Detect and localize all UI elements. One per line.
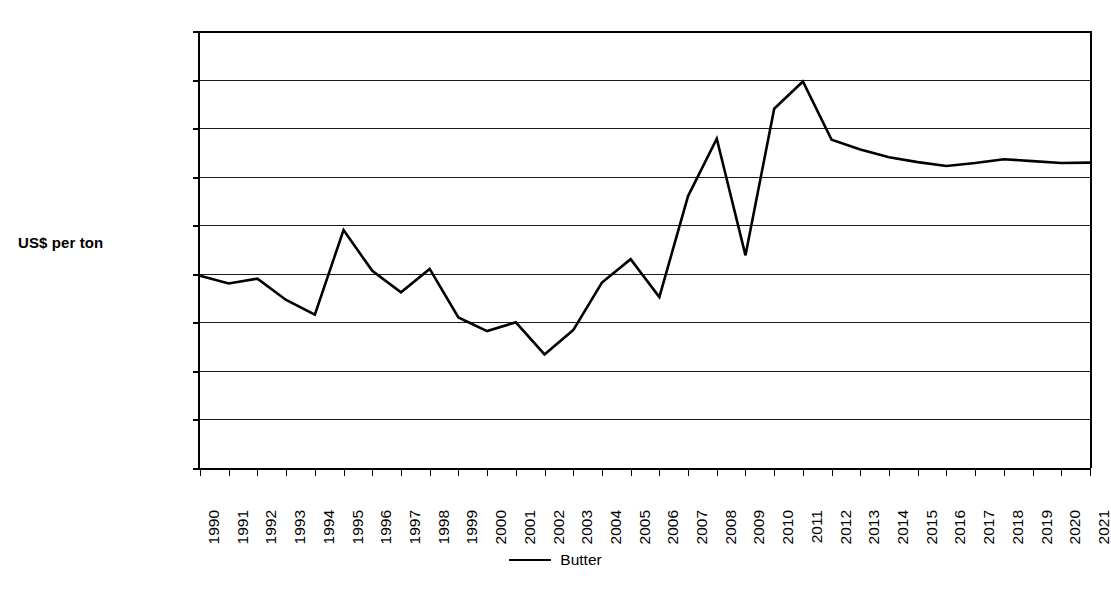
x-tick-label: 2018: [1010, 510, 1026, 544]
x-tick-label: 1992: [263, 510, 279, 544]
x-tick-label: 2000: [493, 510, 509, 544]
x-tick-mark: [889, 468, 890, 476]
x-tick-mark: [803, 468, 804, 476]
x-tick-label: 2020: [1067, 510, 1083, 544]
x-tick-label: 2007: [694, 510, 710, 544]
x-tick-mark: [286, 468, 287, 476]
x-tick-mark: [946, 468, 947, 476]
gridline: [200, 468, 1090, 470]
x-tick-label: 2002: [551, 510, 567, 544]
x-tick-label: 2005: [637, 510, 653, 544]
x-tick-label: 2004: [608, 510, 624, 544]
y-axis-title: US$ per ton: [18, 234, 103, 251]
x-tick-mark: [659, 468, 660, 476]
y-tick-mark: [193, 80, 200, 82]
x-tick-mark: [1033, 468, 1034, 476]
x-tick-mark: [1004, 468, 1005, 476]
x-tick-label: 2014: [895, 510, 911, 544]
x-tick-mark: [372, 468, 373, 476]
y-tick-mark: [193, 371, 200, 373]
x-tick-mark: [430, 468, 431, 476]
x-tick-mark: [573, 468, 574, 476]
x-tick-label: 2017: [981, 510, 997, 544]
x-tick-mark: [257, 468, 258, 476]
legend-label-butter: Butter: [560, 552, 601, 568]
x-tick-label: 2008: [723, 510, 739, 544]
x-tick-mark: [229, 468, 230, 476]
x-tick-label: 2013: [866, 510, 882, 544]
x-tick-mark: [1061, 468, 1062, 476]
x-tick-label: 1994: [321, 510, 337, 544]
x-tick-mark: [975, 468, 976, 476]
x-tick-mark: [487, 468, 488, 476]
x-tick-mark: [745, 468, 746, 476]
x-tick-label: 2019: [1039, 510, 1055, 544]
y-tick-mark: [193, 31, 200, 33]
y-tick-mark: [193, 177, 200, 179]
x-tick-label: 2009: [751, 510, 767, 544]
x-tick-label: 1995: [350, 510, 366, 544]
x-tick-label: 1990: [206, 510, 222, 544]
series-butter: [200, 31, 1090, 468]
x-tick-mark: [200, 468, 201, 476]
series-butter-line: [200, 82, 1090, 355]
y-tick-mark: [193, 468, 200, 470]
x-tick-mark: [458, 468, 459, 476]
x-tick-label: 1993: [292, 510, 308, 544]
x-tick-label: 2015: [924, 510, 940, 544]
x-tick-mark: [602, 468, 603, 476]
y-tick-mark: [193, 274, 200, 276]
x-tick-label: 1991: [235, 510, 251, 544]
x-tick-mark: [918, 468, 919, 476]
x-tick-mark: [717, 468, 718, 476]
legend-swatch-butter: [509, 559, 551, 561]
x-tick-label: 1996: [378, 510, 394, 544]
x-tick-mark: [344, 468, 345, 476]
x-tick-label: 2006: [665, 510, 681, 544]
plot-area: 05001,0001,5002,0002,5003,0003,5004,0004…: [198, 31, 1092, 468]
legend: Butter: [0, 552, 1111, 568]
x-tick-mark: [631, 468, 632, 476]
y-tick-mark: [193, 322, 200, 324]
x-tick-label: 1997: [407, 510, 423, 544]
x-tick-label: 1998: [436, 510, 452, 544]
x-tick-label: 2012: [838, 510, 854, 544]
x-tick-label: 2010: [780, 510, 796, 544]
x-tick-mark: [832, 468, 833, 476]
x-tick-mark: [315, 468, 316, 476]
y-tick-mark: [193, 419, 200, 421]
x-tick-mark: [688, 468, 689, 476]
line-chart: US$ per ton 05001,0001,5002,0002,5003,00…: [0, 0, 1111, 589]
x-tick-label: 2016: [952, 510, 968, 544]
x-tick-mark: [774, 468, 775, 476]
x-tick-mark: [516, 468, 517, 476]
x-tick-mark: [860, 468, 861, 476]
x-tick-label: 2001: [522, 510, 538, 544]
y-tick-mark: [193, 225, 200, 227]
x-tick-label: 2003: [579, 510, 595, 544]
x-tick-label: 2011: [809, 510, 825, 543]
x-tick-mark: [545, 468, 546, 476]
x-tick-label: 2021: [1096, 510, 1111, 544]
x-tick-mark: [1090, 468, 1091, 476]
y-tick-mark: [193, 128, 200, 130]
x-tick-mark: [401, 468, 402, 476]
x-tick-label: 1999: [464, 510, 480, 544]
